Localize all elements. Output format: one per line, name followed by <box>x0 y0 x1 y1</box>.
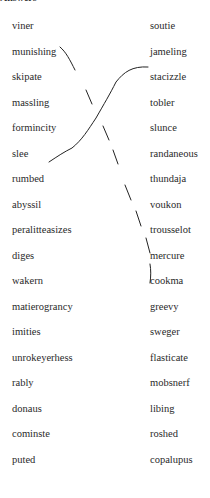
right-word[interactable]: flasticate <box>150 352 188 364</box>
right-word[interactable]: voukon <box>150 199 182 211</box>
left-word[interactable]: unrokeyerhess <box>12 352 73 364</box>
left-word[interactable]: imities <box>12 326 41 338</box>
left-word[interactable]: rumbed <box>12 173 44 185</box>
left-word[interactable]: donaus <box>12 403 42 415</box>
right-word[interactable]: slunce <box>150 122 177 134</box>
right-word[interactable]: jameling <box>150 46 187 58</box>
right-word[interactable]: greevy <box>150 301 179 313</box>
left-word[interactable]: formincity <box>12 122 56 134</box>
left-word[interactable]: massling <box>12 97 49 109</box>
left-word[interactable]: skipate <box>12 71 42 83</box>
right-word[interactable]: stacizzle <box>150 71 186 83</box>
left-word[interactable]: peralitteasizes <box>12 224 71 236</box>
right-word[interactable]: roshed <box>150 428 178 440</box>
left-word[interactable]: viner <box>12 20 34 32</box>
right-word[interactable]: cookma <box>150 275 183 287</box>
right-word[interactable]: copalupus <box>150 454 193 466</box>
left-word[interactable]: matierograncy <box>12 301 73 313</box>
left-word[interactable]: cominste <box>12 428 50 440</box>
right-word[interactable]: libing <box>150 403 175 415</box>
connection-line-rumbed-stacizzle <box>49 67 148 162</box>
right-word[interactable]: mobsnerf <box>150 377 190 389</box>
right-word[interactable]: mercure <box>150 250 184 262</box>
right-word[interactable]: randaneous <box>150 148 198 160</box>
left-word[interactable]: wakern <box>12 275 43 287</box>
connection-line-munishing-cookma <box>60 47 151 283</box>
left-word[interactable]: diges <box>12 250 34 262</box>
right-word[interactable]: tobler <box>150 97 175 109</box>
page-header-cropped: Answers <box>0 0 40 2</box>
right-word[interactable]: sweger <box>150 326 180 338</box>
right-word[interactable]: soutie <box>150 20 175 32</box>
left-word[interactable]: munishing <box>12 46 56 58</box>
right-word[interactable]: thundaja <box>150 173 186 185</box>
left-word[interactable]: slee <box>12 148 28 160</box>
left-word[interactable]: puted <box>12 454 35 466</box>
left-word[interactable]: abyssil <box>12 199 41 211</box>
left-word[interactable]: rably <box>12 377 34 389</box>
right-word[interactable]: trousselot <box>150 224 191 236</box>
